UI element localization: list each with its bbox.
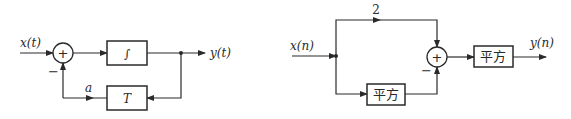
feedback-path-to-delay [147,53,181,98]
plus-sign: + [432,50,443,65]
square-block-output: 平方 [474,46,513,67]
gain-label-a: a [85,81,92,95]
square-block-lower: 平方 [367,84,405,105]
feedback-arrowhead [86,95,94,101]
upper-branch-arrowhead [373,17,381,23]
upper-branch-path [336,20,437,56]
plus-sign: + [58,46,69,61]
output-label-y-t: y(t) [209,46,231,60]
discrete-squaring-diagram: x(n) 2 平方 + − 平方 y(n) [290,3,554,105]
summing-junction: + [53,43,73,63]
minus-sign: − [421,63,432,78]
square-label-lower: 平方 [373,87,399,102]
input-label-x-n: x(n) [290,39,314,53]
continuous-feedback-diagram: x(t) + − ∫ y(t) T a [20,36,231,110]
delay-block-T: T [107,86,147,110]
lower-branch-path [336,56,367,94]
block-diagrams: x(t) + − ∫ y(t) T a x(n) 2 [0,0,571,119]
minus-sign: − [48,64,59,79]
integrator-block: ∫ [107,41,147,65]
delay-symbol-T: T [123,92,132,106]
upper-gain-label: 2 [372,3,380,17]
input-label-x-t: x(t) [20,36,41,50]
integral-symbol: ∫ [124,47,131,61]
output-label-y-n: y(n) [529,36,554,50]
square-label-output: 平方 [480,49,506,64]
